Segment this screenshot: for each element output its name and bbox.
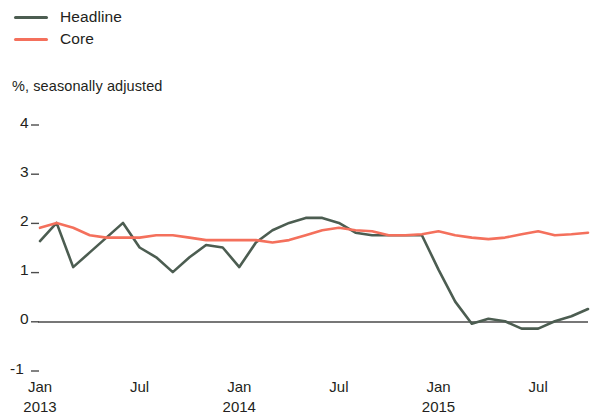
x-tick-month-label: Jul — [529, 378, 548, 395]
x-tick-year-label: 2014 — [223, 398, 256, 415]
x-tick-month-label: Jan — [426, 378, 450, 395]
x-axis-ticks: Jan2013JulJan2014JulJan2015Jul — [23, 378, 547, 415]
series-lines — [40, 218, 588, 329]
inflation-line-chart: Headline Core %, seasonally adjusted 432… — [0, 0, 593, 417]
x-tick-month-label: Jul — [130, 378, 149, 395]
x-tick-month-label: Jul — [329, 378, 348, 395]
y-tick-label: 2 — [20, 212, 29, 229]
x-tick-year-label: 2013 — [23, 398, 56, 415]
x-tick-month-label: Jan — [28, 378, 52, 395]
y-tick-label: -1 — [10, 360, 24, 377]
y-tick-label: 3 — [20, 163, 29, 180]
y-axis-ticks: 43210-1 — [10, 114, 39, 377]
x-tick-month-label: Jan — [227, 378, 251, 395]
y-tick-label: 4 — [20, 114, 29, 131]
series-line-core — [40, 223, 588, 243]
series-line-headline — [40, 218, 588, 329]
y-tick-label: 0 — [20, 310, 29, 327]
x-tick-year-label: 2015 — [422, 398, 455, 415]
y-tick-label: 1 — [20, 261, 29, 278]
chart-plot-area: 43210-1 Jan2013JulJan2014JulJan2015Jul — [0, 0, 593, 417]
